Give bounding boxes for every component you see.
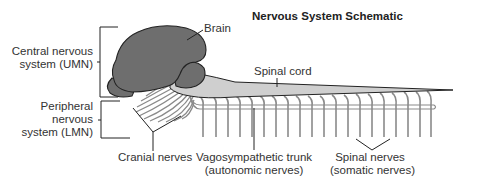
spinal-nerves: [199, 91, 431, 137]
diagram-title: Nervous System Schematic: [252, 10, 403, 22]
spinal-nerves-pointer: [356, 139, 390, 150]
label-cns-line1: Central nervous: [12, 45, 93, 58]
label-pns-line3: system (LMN): [21, 126, 93, 139]
label-pns-line1: Peripheral: [41, 100, 93, 113]
brain: [107, 26, 206, 97]
label-pns-line2: nervous: [52, 113, 93, 126]
label-spinal-nerves-line1: Spinal nerves: [330, 151, 410, 164]
label-brain: Brain: [204, 22, 231, 35]
label-vago-line1: Vagosympathetic trunk: [194, 151, 314, 164]
label-cranial-nerves: Cranial nerves: [118, 151, 192, 164]
label-vago-line2: (autonomic nerves): [194, 164, 314, 177]
cranial-nerves-pointer: [133, 108, 181, 151]
pns-bracket: [98, 101, 130, 138]
label-spinal-cord: Spinal cord: [254, 65, 312, 78]
label-cns-line2: system (UMN): [20, 58, 93, 71]
label-spinal-nerves-line2: (somatic nerves): [330, 164, 410, 177]
nervous-system-diagram: Nervous System Schematic Brain Spinal co…: [0, 0, 478, 187]
